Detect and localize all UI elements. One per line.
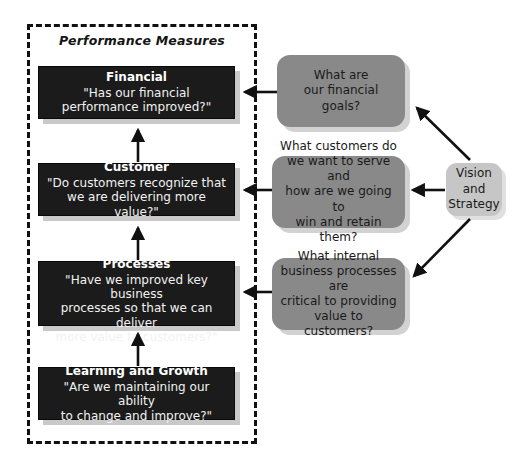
diagram-canvas: Performance Measures Financial "Has our … xyxy=(0,0,529,468)
perspective-question-internal-business-processes: "Have we improved key business processes… xyxy=(45,273,228,345)
perspective-title-customer: Customer xyxy=(104,160,169,175)
perspective-title-internal-business-processes: Internal Business Processes xyxy=(45,242,228,271)
perspective-box-customer: Customer "Do customers recognize that we… xyxy=(38,163,235,216)
perspective-question-learning-and-growth: "Are we maintaining our ability to chang… xyxy=(45,380,228,423)
question-box-customer-focus: What customers do we want to serve and h… xyxy=(272,156,405,228)
arrow-vision-to-internal-processes xyxy=(414,219,470,276)
performance-measures-title: Performance Measures xyxy=(27,33,257,48)
perspective-title-financial: Financial xyxy=(106,70,167,85)
question-box-financial-goals: What are our financial goals? xyxy=(277,55,405,127)
perspective-question-financial: "Has our financial performance improved?… xyxy=(62,86,211,115)
perspective-question-customer: "Do customers recognize that we are deli… xyxy=(45,176,228,219)
perspective-box-internal-business-processes: Internal Business Processes "Have we imp… xyxy=(38,261,235,326)
perspective-box-learning-and-growth: Learning and Growth "Are we maintaining … xyxy=(38,367,235,420)
perspective-title-learning-and-growth: Learning and Growth xyxy=(65,364,208,379)
perspective-box-financial: Financial "Has our financial performance… xyxy=(38,66,235,119)
vision-and-strategy-box: Vision and Strategy xyxy=(446,163,502,216)
arrow-vision-to-financial-goals xyxy=(417,108,470,160)
question-box-internal-processes: What internal business processes are cri… xyxy=(272,258,405,330)
